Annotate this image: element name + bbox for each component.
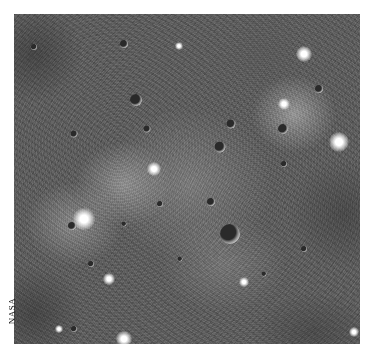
bright-spot [349,327,359,337]
crater [157,201,163,207]
crater [71,131,78,138]
crater [262,272,267,277]
bright-spot [239,277,249,287]
bright-spot [175,42,183,50]
crater [301,246,307,252]
bright-spot [278,98,290,110]
bright-spot [55,325,63,333]
crater [315,85,323,93]
crater [281,161,287,167]
basin-photograph [14,14,360,344]
bright-spot [103,273,115,285]
crater [220,224,240,244]
crater [130,94,142,106]
crater [178,257,183,262]
crater [88,261,94,267]
bright-spot [147,162,161,176]
crater [71,326,77,332]
bright-spot [296,46,312,62]
crater [120,40,128,48]
crater [68,222,76,230]
crater [31,44,37,50]
bright-spot [73,208,95,230]
crater [207,198,215,206]
bright-spot [329,132,349,152]
photo-credit: NASA [7,296,21,326]
crater [122,222,127,227]
crater [215,142,226,153]
crater [227,120,236,129]
crater [144,126,151,133]
crater [278,124,288,134]
surface-texture [14,14,360,344]
bright-spot [116,331,132,344]
